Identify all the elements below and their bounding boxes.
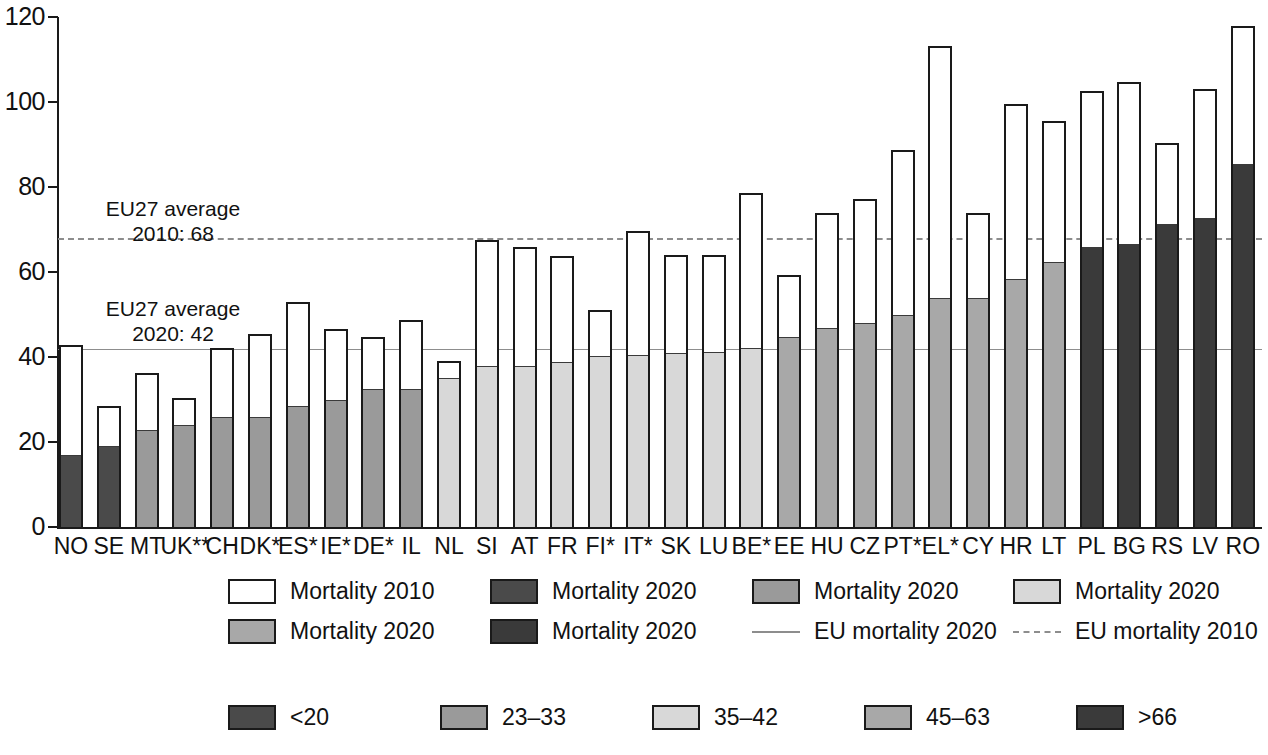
- y-axis-tick-label: 40: [18, 344, 45, 369]
- bar-mortality-2020[interactable]: [779, 337, 799, 527]
- bar-mortality-2020[interactable]: [363, 389, 383, 527]
- bar-mortality-2010[interactable]: [928, 46, 952, 529]
- bar-mortality-2010[interactable]: [437, 361, 461, 529]
- bar-mortality-2020[interactable]: [968, 298, 988, 527]
- bar-mortality-2010[interactable]: [361, 337, 385, 529]
- bar-mortality-2010[interactable]: [210, 348, 234, 529]
- legend-item: Mortality 2020: [1013, 578, 1219, 604]
- bar-mortality-2010[interactable]: [626, 231, 650, 529]
- bar-mortality-2020[interactable]: [1233, 164, 1253, 527]
- bar-mortality-2020[interactable]: [326, 400, 346, 528]
- legend-item: Mortality 2020: [490, 618, 696, 644]
- bar-mortality-2020[interactable]: [401, 389, 421, 527]
- bar-mortality-2020[interactable]: [817, 328, 837, 527]
- bar-mortality-2010[interactable]: [59, 345, 83, 529]
- bar-mortality-2010[interactable]: [966, 213, 990, 530]
- bar-mortality-2020[interactable]: [61, 455, 81, 527]
- bar-mortality-2010[interactable]: [97, 406, 121, 529]
- bar-mortality-2010[interactable]: [248, 334, 272, 529]
- scale-legend: <2023–3335–4245–63>66: [0, 690, 1268, 750]
- bar-mortality-2020[interactable]: [590, 356, 610, 527]
- bar-mortality-2020[interactable]: [704, 352, 724, 527]
- bar-mortality-2020[interactable]: [250, 417, 270, 528]
- bar-mortality-2010[interactable]: [172, 398, 196, 529]
- x-axis-label-ro: RO: [1219, 533, 1267, 559]
- bar-mortality-2020[interactable]: [477, 366, 497, 527]
- bar-mortality-2020[interactable]: [212, 417, 232, 527]
- bar-mortality-2010[interactable]: [588, 310, 612, 529]
- bar-mortality-2010[interactable]: [702, 255, 726, 529]
- scale-legend-label: 35–42: [714, 704, 778, 730]
- bar-mortality-2020[interactable]: [552, 362, 572, 527]
- legend-item: Mortality 2020: [490, 578, 696, 604]
- bar-mortality-2020[interactable]: [137, 430, 157, 527]
- bar-mortality-2010[interactable]: [891, 150, 915, 529]
- scale-legend-swatch-icon: [652, 705, 700, 730]
- bar-mortality-2010[interactable]: [475, 240, 499, 529]
- scale-legend-item: <20: [228, 704, 329, 730]
- bar-mortality-2010[interactable]: [135, 373, 159, 529]
- bar-mortality-2010[interactable]: [1231, 26, 1255, 530]
- legend-dashed-line-icon: [1013, 619, 1061, 644]
- bar-mortality-2010[interactable]: [664, 255, 688, 529]
- bar-mortality-2010[interactable]: [399, 320, 423, 529]
- legend-item: Mortality 2020: [752, 578, 958, 604]
- bar-mortality-2020[interactable]: [1195, 218, 1215, 527]
- bar-mortality-2010[interactable]: [550, 256, 574, 529]
- legend-line-icon: [752, 619, 800, 644]
- bar-mortality-2020[interactable]: [930, 298, 950, 527]
- bar-mortality-2010[interactable]: [815, 213, 839, 530]
- y-axis-tick: [48, 526, 58, 528]
- bar-mortality-2020[interactable]: [893, 315, 913, 527]
- y-axis-tick: [48, 271, 58, 273]
- bar-mortality-2010[interactable]: [1117, 82, 1141, 529]
- bar-mortality-2010[interactable]: [1004, 104, 1028, 529]
- legend-swatch-icon: [1013, 579, 1061, 604]
- scale-legend-item: 23–33: [440, 704, 566, 730]
- bar-mortality-2020[interactable]: [288, 406, 308, 527]
- legend-item-label: EU mortality 2010: [1075, 618, 1258, 644]
- chart-root: 120100806040200 EU27 average 2010: 68 EU…: [0, 0, 1268, 755]
- bar-mortality-2020[interactable]: [855, 323, 875, 527]
- bar-mortality-2020[interactable]: [1006, 279, 1026, 527]
- bar-mortality-2010[interactable]: [1155, 143, 1179, 529]
- bar-mortality-2010[interactable]: [739, 193, 763, 529]
- y-axis-tick-label: 0: [32, 514, 45, 539]
- eu-average-2010-annotation: EU27 average 2010: 68: [78, 196, 268, 246]
- bar-mortality-2010[interactable]: [1080, 91, 1104, 529]
- y-axis-tick-label: 100: [5, 89, 45, 114]
- legend-item-label: Mortality 2020: [1075, 578, 1219, 604]
- bar-mortality-2010[interactable]: [324, 329, 348, 529]
- bar-mortality-2020[interactable]: [99, 446, 119, 527]
- bar-mortality-2010[interactable]: [777, 275, 801, 529]
- legend-swatch-icon: [228, 579, 276, 604]
- bar-mortality-2010[interactable]: [1193, 89, 1217, 529]
- bar-mortality-2010[interactable]: [1042, 121, 1066, 529]
- y-axis-tick: [48, 186, 58, 188]
- bar-mortality-2010[interactable]: [513, 247, 537, 530]
- bar-mortality-2020[interactable]: [174, 425, 194, 527]
- bar-mortality-2020[interactable]: [628, 355, 648, 527]
- y-axis-tick: [48, 356, 58, 358]
- bar-mortality-2020[interactable]: [1044, 262, 1064, 527]
- bar-mortality-2020[interactable]: [741, 348, 761, 527]
- legend-item-label: EU mortality 2020: [814, 618, 997, 644]
- scale-legend-label: >66: [1138, 704, 1177, 730]
- bar-mortality-2020[interactable]: [1082, 247, 1102, 527]
- bar-mortality-2020[interactable]: [439, 378, 459, 527]
- scale-legend-swatch-icon: [1076, 705, 1124, 730]
- bar-mortality-2020[interactable]: [1119, 244, 1139, 527]
- bar-mortality-2010[interactable]: [853, 199, 877, 529]
- series-legend: Mortality 2010Mortality 2020Mortality 20…: [0, 570, 1268, 670]
- bar-mortality-2010[interactable]: [286, 302, 310, 529]
- bar-mortality-2020[interactable]: [666, 353, 686, 527]
- legend-item: Mortality 2010: [228, 578, 434, 604]
- scale-legend-label: 23–33: [502, 704, 566, 730]
- legend-item-label: Mortality 2020: [290, 618, 434, 644]
- legend-swatch-icon: [490, 579, 538, 604]
- scale-legend-item: >66: [1076, 704, 1177, 730]
- bar-mortality-2020[interactable]: [515, 366, 535, 528]
- bar-mortality-2020[interactable]: [1157, 224, 1177, 527]
- legend-swatch-icon: [752, 579, 800, 604]
- legend-item: EU mortality 2020: [752, 618, 997, 644]
